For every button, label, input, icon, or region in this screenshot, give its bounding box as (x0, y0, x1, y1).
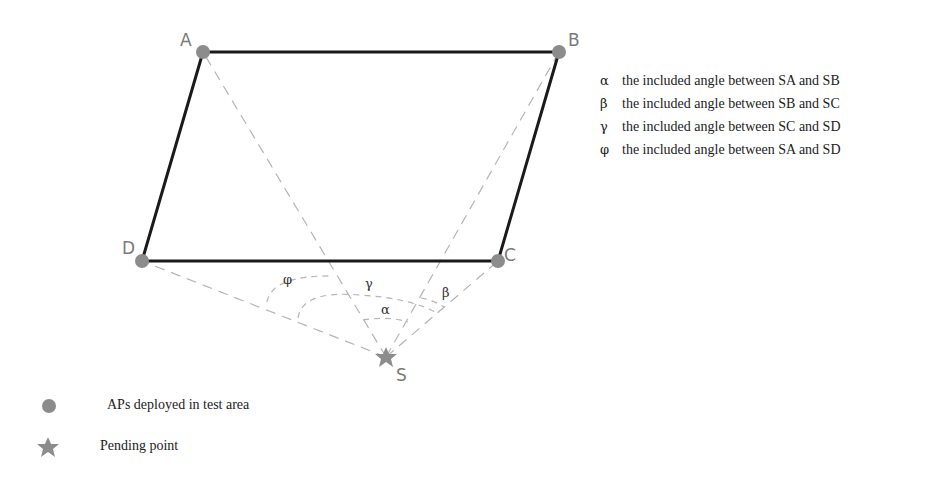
definition-text: the included angle between SA and SD (622, 142, 841, 157)
definition-alpha: αthe included angle between SA and SB (600, 69, 841, 92)
angle-label-beta: β (442, 285, 450, 300)
pending-legend-text: Pending point (100, 438, 178, 454)
label-B: B (568, 30, 580, 50)
arc-alpha (363, 318, 408, 322)
angle-label-alpha: α (381, 302, 390, 317)
angle-arcs (267, 276, 444, 322)
line-SD (142, 261, 386, 357)
definition-phi: φthe included angle between SA and SD (600, 138, 841, 161)
edge-DA (142, 52, 203, 261)
definition-symbol: φ (600, 138, 622, 161)
line-SB (386, 52, 559, 357)
angle-definitions: αthe included angle between SA and SB βt… (600, 69, 841, 161)
definition-symbol: β (600, 92, 622, 115)
edge-BC (498, 52, 559, 261)
ap-legend-text: APs deployed in test area (107, 397, 249, 413)
arc-gamma-alpha-outer (298, 294, 437, 318)
ap-marker-B (552, 45, 566, 59)
label-C: C (504, 245, 516, 265)
line-SA (203, 52, 386, 357)
definition-text: the included angle between SA and SB (622, 73, 840, 88)
ap-marker-A (196, 45, 210, 59)
label-D: D (122, 238, 135, 258)
ap-marker-D (135, 254, 149, 268)
quadrilateral (142, 52, 559, 261)
arc-phi (267, 276, 333, 302)
pending-point-star-icon (375, 347, 397, 367)
definition-symbol: α (600, 69, 622, 92)
ap-legend-circle-icon (42, 399, 56, 413)
ap-markers (135, 45, 566, 268)
arc-beta (421, 298, 444, 307)
angle-label-gamma: γ (365, 276, 373, 291)
line-SC (386, 261, 498, 357)
definition-gamma: γthe included angle between SC and SD (600, 115, 841, 138)
label-S: S (396, 365, 407, 385)
sight-lines (142, 52, 559, 357)
ap-marker-C (491, 254, 505, 268)
definition-beta: βthe included angle between SB and SC (600, 92, 841, 115)
label-A: A (180, 30, 192, 50)
definition-symbol: γ (600, 115, 622, 138)
definition-text: the included angle between SB and SC (622, 96, 840, 111)
pending-legend-star-icon (37, 437, 59, 457)
definition-text: the included angle between SC and SD (622, 119, 841, 134)
angle-label-phi: φ (283, 272, 292, 287)
